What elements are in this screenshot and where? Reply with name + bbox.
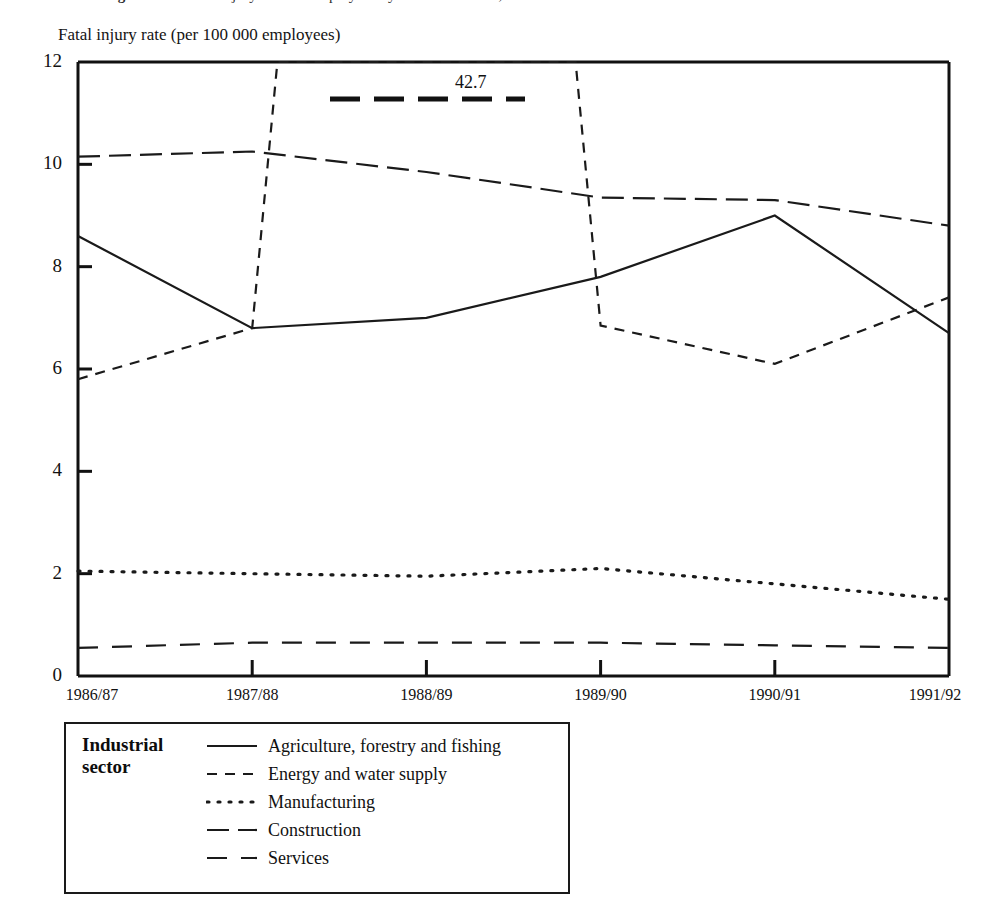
legend-item-label: Energy and water supply xyxy=(268,764,447,785)
series-line xyxy=(78,62,949,379)
legend-line-icon xyxy=(206,851,258,865)
y-tick-label: 8 xyxy=(22,255,62,277)
series-line xyxy=(78,216,949,334)
series-line xyxy=(78,643,949,648)
series-line xyxy=(78,152,949,226)
legend-line-icon xyxy=(206,795,258,809)
legend-item-label: Services xyxy=(268,848,329,869)
legend-item[interactable]: Manufacturing xyxy=(206,788,556,816)
legend-item-label: Construction xyxy=(268,820,361,841)
x-tick-label: 1986/87 xyxy=(66,686,118,704)
y-axis-ticks xyxy=(78,164,92,573)
y-tick-label: 10 xyxy=(22,152,62,174)
legend-item[interactable]: Services xyxy=(206,844,556,872)
legend-title: Industrial sector xyxy=(82,734,212,778)
legend-line-icon xyxy=(206,823,258,837)
y-tick-label: 6 xyxy=(22,357,62,379)
legend-title-line1: Industrial xyxy=(82,734,212,756)
legend-item[interactable]: Agriculture, forestry and fishing xyxy=(206,732,556,760)
axis-frame xyxy=(78,62,949,676)
x-axis-ticks xyxy=(252,660,775,676)
legend: Industrial sector Agriculture, forestry … xyxy=(64,722,570,894)
legend-item-label: Manufacturing xyxy=(268,792,375,813)
y-tick-label: 2 xyxy=(22,562,62,584)
x-tick-label: 1988/89 xyxy=(400,686,452,704)
series-line xyxy=(78,569,949,600)
x-tick-label: 1991/92 xyxy=(909,686,961,704)
y-tick-label: 12 xyxy=(22,50,62,72)
x-tick-label: 1989/90 xyxy=(574,686,626,704)
legend-title-line2: sector xyxy=(82,756,212,778)
legend-item[interactable]: Construction xyxy=(206,816,556,844)
x-tick-label: 1987/88 xyxy=(226,686,278,704)
legend-line-icon xyxy=(206,739,258,753)
legend-line-icon xyxy=(206,767,258,781)
legend-entries: Agriculture, forestry and fishingEnergy … xyxy=(206,732,556,872)
data-series-layer xyxy=(78,62,949,648)
legend-item[interactable]: Energy and water supply xyxy=(206,760,556,788)
offscale-value-label: 42.7 xyxy=(455,72,487,93)
legend-item-label: Agriculture, forestry and fishing xyxy=(268,736,501,757)
x-tick-label: 1990/91 xyxy=(749,686,801,704)
y-tick-label: 4 xyxy=(22,459,62,481)
y-tick-label: 0 xyxy=(22,664,62,686)
